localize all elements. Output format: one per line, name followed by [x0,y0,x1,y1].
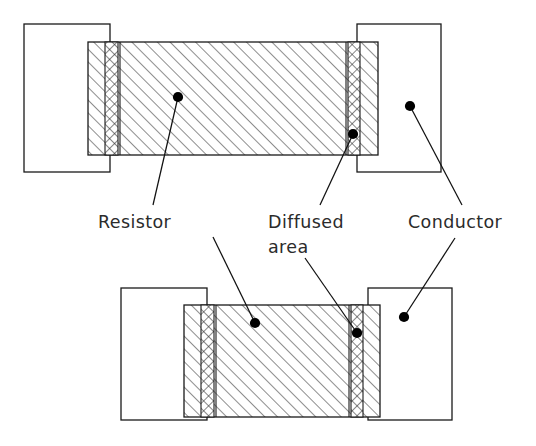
bottom-construction-view [121,288,452,420]
diffused-leader-bottom-dot [352,328,362,338]
resistor-leader-bottom-dot [250,318,260,328]
label-conductor: Conductor [408,212,503,232]
label-diffused-line1: Diffused [268,212,344,232]
bottom-diffused-band-right [351,305,363,417]
figure-container: Resistor Diffused area Conductor [0,0,536,446]
bottom-diffused-band-left [201,305,214,417]
construction-diagram: Resistor Diffused area Conductor [0,0,536,446]
label-diffused-line2: area [268,237,309,257]
resistor-leader-top-dot [173,92,183,102]
top-construction-view [24,24,441,172]
conductor-leader-bottom-dot [399,312,409,322]
top-resistor-body [88,42,378,155]
conductor-leader-top-dot [405,101,415,111]
label-resistor: Resistor [98,212,172,232]
diffused-leader-top-dot [348,129,358,139]
top-diffused-band-left [105,42,118,155]
